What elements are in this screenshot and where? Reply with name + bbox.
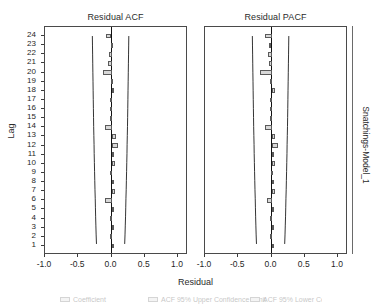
x-tick-mark-0-1 — [77, 254, 78, 257]
bar-pacf-lag-14 — [265, 125, 271, 130]
y-tick-label-18: 18 — [8, 86, 36, 94]
y-tick-label-10: 10 — [8, 159, 36, 167]
bar-acf-lag-5 — [112, 207, 114, 212]
confidence-limit-curves — [205, 27, 346, 253]
x-tick-mark-1-4 — [337, 254, 338, 257]
bar-pacf-lag-24 — [265, 34, 271, 39]
y-tick-mark-21 — [41, 62, 44, 63]
bar-acf-lag-6 — [105, 198, 112, 203]
x-tick-label-0-2: 0.0 — [95, 259, 127, 269]
y-tick-label-7: 7 — [8, 186, 36, 194]
y-tick-mark-22 — [41, 53, 44, 54]
upper-confidence-limit — [125, 36, 129, 244]
acf-panel-title: Residual ACF — [44, 12, 187, 22]
bar-pacf-lag-2 — [270, 234, 272, 239]
x-tick-label-0-0: -1.0 — [28, 259, 60, 269]
bar-acf-lag-11 — [112, 152, 114, 157]
acf-plot-inner — [45, 27, 186, 253]
bar-acf-lag-13 — [112, 134, 116, 139]
bar-pacf-lag-15 — [270, 116, 272, 121]
y-tick-mark-20 — [41, 72, 44, 73]
bar-acf-lag-4 — [110, 216, 112, 221]
bar-acf-lag-14 — [105, 125, 112, 130]
y-tick-mark-11 — [41, 154, 44, 155]
y-tick-label-19: 19 — [8, 77, 36, 85]
y-tick-label-8: 8 — [8, 177, 36, 185]
y-tick-label-24: 24 — [8, 31, 36, 39]
x-tick-mark-1-3 — [304, 254, 305, 257]
bar-pacf-lag-20 — [260, 70, 271, 75]
bar-pacf-lag-3 — [272, 225, 274, 230]
y-tick-mark-1 — [41, 245, 44, 246]
bar-pacf-lag-4 — [270, 216, 272, 221]
upper-confidence-limit — [285, 36, 289, 244]
bar-pacf-lag-10 — [272, 161, 276, 166]
y-tick-mark-18 — [41, 90, 44, 91]
x-tick-label-1-4: 1.0 — [321, 259, 353, 269]
x-tick-mark-0-0 — [44, 254, 45, 257]
y-tick-mark-24 — [41, 35, 44, 36]
bar-acf-lag-10 — [112, 161, 116, 166]
y-tick-label-6: 6 — [8, 195, 36, 203]
y-tick-mark-10 — [41, 163, 44, 164]
bar-pacf-lag-22 — [268, 52, 272, 57]
y-axis-label: Lag — [6, 111, 16, 151]
strip-label: Snatchings-Model_1 — [361, 85, 371, 205]
y-tick-label-1: 1 — [8, 241, 36, 249]
bar-pacf-lag-11 — [272, 152, 274, 157]
legend-swatch-2 — [250, 297, 260, 302]
bar-acf-lag-19 — [111, 79, 113, 84]
bar-pacf-lag-9 — [271, 171, 273, 176]
x-tick-mark-1-2 — [271, 254, 272, 257]
x-tick-label-1-3: 0.5 — [288, 259, 320, 269]
bar-acf-lag-12 — [112, 143, 119, 148]
bar-acf-lag-9 — [110, 171, 112, 176]
y-tick-mark-3 — [41, 227, 44, 228]
y-tick-mark-9 — [41, 172, 44, 173]
y-tick-label-17: 17 — [8, 95, 36, 103]
y-tick-label-4: 4 — [8, 214, 36, 222]
y-tick-mark-13 — [41, 135, 44, 136]
x-tick-mark-0-4 — [177, 254, 178, 257]
x-tick-label-0-1: -0.5 — [61, 259, 93, 269]
legend: CoefficientACF 95% Upper Confidence Limi… — [60, 296, 322, 304]
acf-plot-area — [44, 26, 187, 254]
bar-acf-lag-21 — [108, 61, 112, 66]
y-tick-mark-14 — [41, 126, 44, 127]
y-tick-mark-7 — [41, 190, 44, 191]
y-tick-mark-15 — [41, 117, 44, 118]
y-tick-mark-4 — [41, 218, 44, 219]
x-tick-label-1-0: -1.0 — [188, 259, 220, 269]
bar-acf-lag-24 — [106, 34, 112, 39]
bar-pacf-lag-13 — [272, 134, 276, 139]
bar-pacf-lag-18 — [272, 88, 276, 93]
y-tick-label-3: 3 — [8, 223, 36, 231]
lower-confidence-limit — [252, 36, 256, 244]
bar-pacf-lag-1 — [272, 244, 274, 249]
y-tick-mark-12 — [41, 145, 44, 146]
bar-acf-lag-22 — [109, 52, 112, 57]
y-tick-mark-6 — [41, 199, 44, 200]
bar-acf-lag-23 — [111, 43, 113, 48]
bar-acf-lag-20 — [103, 70, 111, 75]
x-tick-label-0-3: 0.5 — [128, 259, 160, 269]
bar-acf-lag-8 — [112, 180, 114, 185]
bar-acf-lag-1 — [112, 244, 114, 249]
x-tick-mark-0-3 — [144, 254, 145, 257]
x-tick-label-1-2: 0.0 — [255, 259, 287, 269]
bar-pacf-lag-7 — [272, 189, 276, 194]
confidence-limit-curves — [45, 27, 186, 253]
bar-pacf-lag-21 — [269, 61, 272, 66]
x-axis-label: Residual — [44, 277, 347, 287]
bar-acf-lag-3 — [112, 225, 114, 230]
bar-acf-lag-15 — [110, 116, 112, 121]
y-tick-label-20: 20 — [8, 68, 36, 76]
legend-label-0: Coefficient — [73, 296, 106, 303]
strip-divider — [352, 26, 353, 254]
y-tick-label-21: 21 — [8, 58, 36, 66]
bar-pacf-lag-6 — [267, 198, 272, 203]
bar-acf-lag-16 — [110, 107, 112, 112]
bar-pacf-lag-23 — [269, 43, 271, 48]
pacf-plot-area — [204, 26, 347, 254]
